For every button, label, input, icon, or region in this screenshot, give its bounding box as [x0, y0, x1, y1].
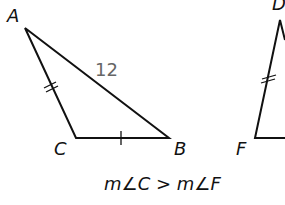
triangle-abc — [25, 28, 169, 145]
triangle-def — [255, 20, 285, 138]
side-length-ab: 12 — [95, 59, 118, 80]
vertex-label-d: D — [272, 0, 285, 14]
triangles-diagram: A C B 12 D F m∠C > m∠F — [0, 0, 285, 205]
vertex-label-c: C — [54, 138, 67, 159]
vertex-label-f: F — [236, 138, 247, 159]
vertex-label-b: B — [174, 138, 186, 159]
angle-inequality-caption: m∠C > m∠F — [104, 173, 221, 194]
vertex-label-a: A — [6, 5, 19, 26]
